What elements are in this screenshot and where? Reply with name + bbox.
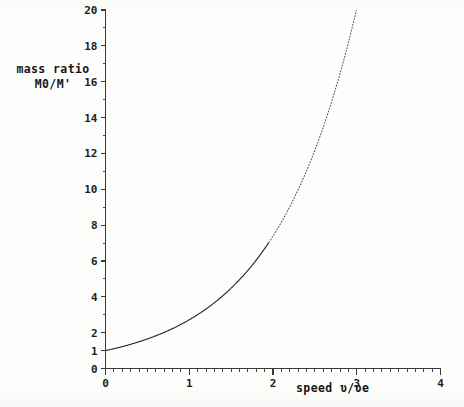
y-tick-label: 10 — [84, 183, 97, 196]
y-tick-label: 20 — [84, 4, 97, 17]
chart-page: 012468101214161820 01234 mass ratioM0/M'… — [0, 0, 464, 407]
mass-ratio-curve-dotted — [269, 11, 356, 243]
x-tick-label: 4 — [437, 377, 444, 390]
x-axis-tick-labels: 01234 — [102, 377, 444, 390]
y-axis-ticks — [101, 10, 106, 369]
y-tick-label: 4 — [91, 291, 98, 304]
y-tick-label: 2 — [91, 327, 98, 340]
x-axis-title: speed ʋ/ʋe — [296, 381, 369, 396]
y-tick-label: 14 — [84, 112, 98, 125]
y-axis-title-line2: M0/M' — [35, 77, 72, 91]
mass-ratio-curve-solid — [106, 243, 269, 351]
y-tick-label: 6 — [91, 255, 98, 268]
y-tick-label: 8 — [91, 219, 98, 232]
y-tick-label: 1 — [91, 345, 98, 358]
x-tick-label: 0 — [102, 377, 109, 390]
y-axis-title: mass ratioM0/M' — [11, 62, 95, 92]
y-tick-label: 12 — [84, 147, 97, 160]
y-tick-label: 18 — [84, 40, 97, 53]
x-tick-label: 1 — [186, 377, 193, 390]
y-axis-tick-labels: 012468101214161820 — [84, 4, 98, 376]
x-tick-label: 2 — [270, 377, 277, 390]
x-axis-ticks — [106, 369, 441, 375]
y-tick-label: 0 — [91, 363, 98, 376]
y-axis-title-line1: mass ratio — [16, 62, 89, 76]
